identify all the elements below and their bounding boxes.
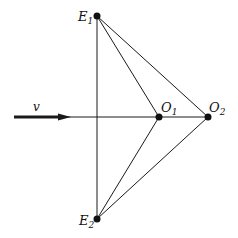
point-e1 xyxy=(94,13,101,20)
label-velocity: v xyxy=(33,100,40,114)
segment-e1-o2 xyxy=(97,16,208,117)
label-e1: E1 xyxy=(77,9,93,26)
point-e2 xyxy=(94,216,101,223)
label-o1: O1 xyxy=(161,100,177,117)
label-o2: O2 xyxy=(209,100,226,117)
label-e2: E2 xyxy=(78,213,95,230)
segment-e1-o1 xyxy=(97,16,159,117)
diagram-canvas: E1 E2 O1 O2 v xyxy=(0,0,238,238)
velocity-arrow-icon xyxy=(14,114,71,121)
geometry-diagram: E1 E2 O1 O2 v xyxy=(0,0,238,238)
segment-e2-o1 xyxy=(97,117,159,219)
segment-e2-o2 xyxy=(97,117,208,219)
